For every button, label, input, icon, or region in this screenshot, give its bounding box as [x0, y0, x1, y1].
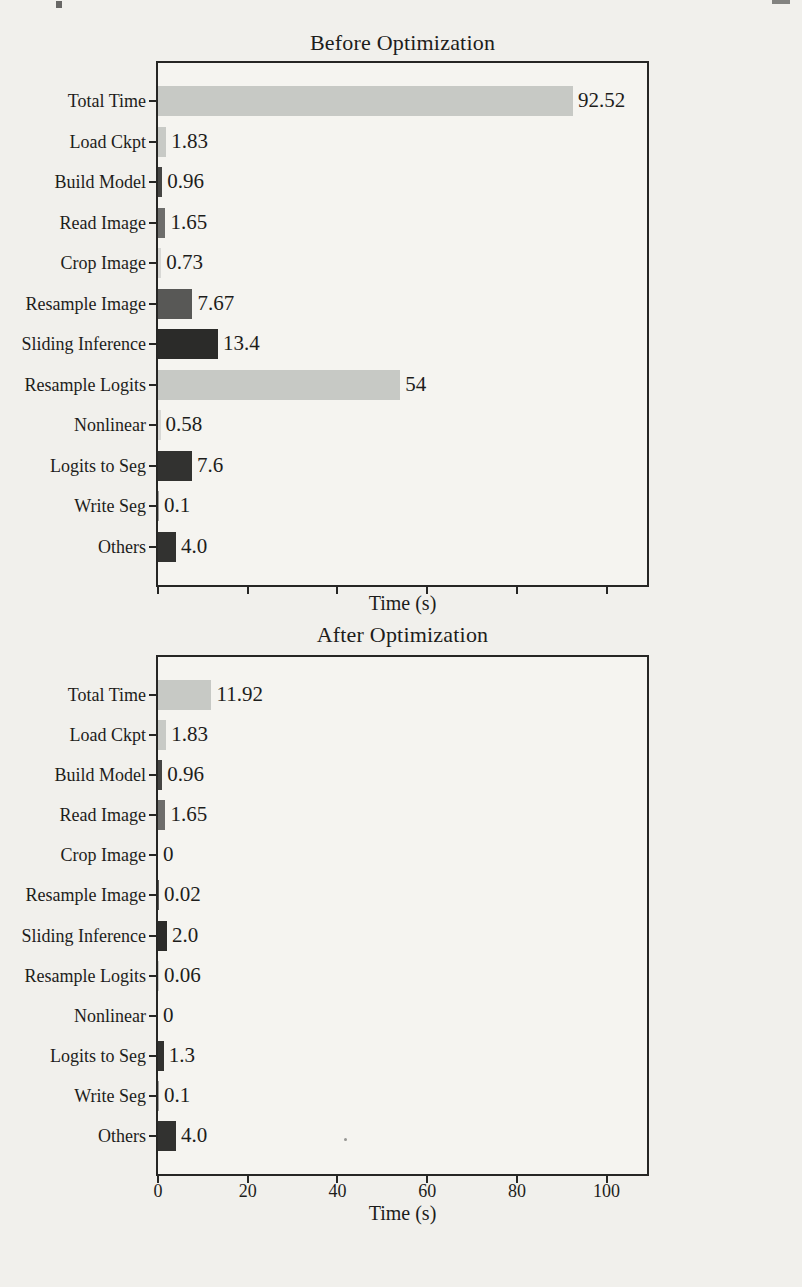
category-label: Sliding Inference — [0, 925, 146, 946]
value-label: 1.83 — [171, 722, 208, 747]
value-label: 4.0 — [181, 533, 207, 558]
category-label: Nonlinear — [0, 1005, 146, 1026]
value-label: 0.02 — [164, 882, 201, 907]
category-label: Write Seg — [0, 496, 146, 517]
scan-speck — [772, 0, 790, 4]
y-tick — [149, 694, 156, 696]
y-tick — [149, 894, 156, 896]
x-axis-label: Time (s) — [369, 592, 437, 615]
category-label: Resample Image — [0, 293, 146, 314]
bar-write-seg — [158, 1081, 159, 1111]
y-tick — [149, 1095, 156, 1097]
bar-resample-image — [158, 289, 192, 319]
bar-write-seg — [158, 491, 159, 521]
y-tick — [149, 222, 156, 224]
y-tick — [149, 262, 156, 264]
y-tick — [149, 935, 156, 937]
y-tick — [149, 1055, 156, 1057]
bar-sliding-inference — [158, 921, 167, 951]
value-label: 0 — [163, 842, 174, 867]
x-tick-label: 0 — [154, 1181, 163, 1202]
y-tick — [149, 424, 156, 426]
category-label: Others — [0, 536, 146, 557]
x-tick-label: 80 — [508, 1181, 526, 1202]
bar-crop-image — [158, 248, 161, 278]
y-tick — [149, 181, 156, 183]
value-label: 7.67 — [197, 291, 234, 316]
scan-speck — [344, 1138, 347, 1141]
y-tick — [149, 505, 156, 507]
bar-others — [158, 532, 176, 562]
bar-total-time — [158, 86, 573, 116]
value-label: 92.52 — [578, 88, 625, 113]
value-label: 13.4 — [223, 331, 260, 356]
y-tick — [149, 100, 156, 102]
value-label: 1.3 — [169, 1043, 195, 1068]
category-label: Load Ckpt — [0, 131, 146, 152]
y-tick — [149, 384, 156, 386]
y-tick — [149, 1015, 156, 1017]
y-tick — [149, 814, 156, 816]
category-label: Read Image — [0, 805, 146, 826]
bar-others — [158, 1121, 176, 1151]
bar-load-ckpt — [158, 127, 166, 157]
value-label: 0.96 — [167, 169, 204, 194]
value-label: 0.06 — [164, 962, 201, 987]
value-label: 1.83 — [171, 129, 208, 154]
bar-read-image — [158, 208, 165, 238]
value-label: 0.1 — [164, 1083, 190, 1108]
category-label: Logits to Seg — [0, 455, 146, 476]
x-tick — [247, 587, 249, 594]
y-tick — [149, 975, 156, 977]
bar-nonlinear — [158, 410, 161, 440]
category-label: Build Model — [0, 172, 146, 193]
x-tick — [606, 587, 608, 594]
bar-resample-logits — [158, 961, 159, 991]
y-tick — [149, 1135, 156, 1137]
bar-resample-image — [158, 880, 159, 910]
value-label: 4.0 — [181, 1123, 207, 1148]
category-label: Resample Logits — [0, 965, 146, 986]
category-label: Sliding Inference — [0, 334, 146, 355]
value-label: 0.96 — [167, 762, 204, 787]
y-tick — [149, 734, 156, 736]
category-label: Total Time — [0, 685, 146, 706]
category-label: Build Model — [0, 765, 146, 786]
category-label: Crop Image — [0, 845, 146, 866]
x-tick-label: 100 — [593, 1181, 620, 1202]
category-label: Nonlinear — [0, 415, 146, 436]
x-axis-label: Time (s) — [369, 1202, 437, 1225]
plot-area — [156, 61, 649, 587]
y-tick — [149, 343, 156, 345]
y-tick — [149, 546, 156, 548]
value-label: 0 — [163, 1002, 174, 1027]
bar-sliding-inference — [158, 329, 218, 359]
y-tick — [149, 141, 156, 143]
category-label: Read Image — [0, 212, 146, 233]
plot-area — [156, 655, 649, 1176]
value-label: 0.73 — [166, 250, 203, 275]
bar-total-time — [158, 680, 211, 710]
x-tick-label: 20 — [239, 1181, 257, 1202]
category-label: Others — [0, 1125, 146, 1146]
category-label: Crop Image — [0, 253, 146, 274]
y-tick — [149, 854, 156, 856]
bar-build-model — [158, 167, 162, 197]
category-label: Logits to Seg — [0, 1045, 146, 1066]
scan-speck — [56, 1, 62, 8]
y-tick — [149, 465, 156, 467]
value-label: 1.65 — [170, 802, 207, 827]
value-label: 0.58 — [166, 412, 203, 437]
value-label: 54 — [405, 371, 426, 396]
category-label: Resample Logits — [0, 374, 146, 395]
bar-load-ckpt — [158, 720, 166, 750]
y-tick — [149, 774, 156, 776]
scanned-page: Before OptimizationTotal Time92.52Load C… — [0, 0, 802, 1287]
x-tick-label: 60 — [418, 1181, 436, 1202]
category-label: Load Ckpt — [0, 725, 146, 746]
bar-logits-to-seg — [158, 451, 192, 481]
chart-title: After Optimization — [317, 622, 489, 648]
bar-build-model — [158, 760, 162, 790]
value-label: 0.1 — [164, 493, 190, 518]
x-tick — [157, 587, 159, 594]
